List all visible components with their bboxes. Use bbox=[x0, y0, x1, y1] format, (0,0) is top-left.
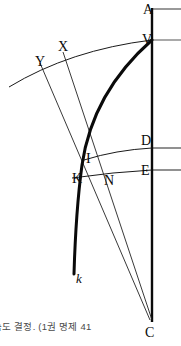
label-n: N bbox=[104, 174, 114, 188]
geometry-figure: A V X Y D I E K N k C 속도 결정. (1권 명제 41 bbox=[0, 0, 181, 346]
label-i: I bbox=[86, 152, 91, 166]
figure-caption: 속도 결정. (1권 명제 41 bbox=[0, 319, 91, 333]
label-e: E bbox=[141, 164, 150, 178]
geometry-diagram bbox=[0, 0, 181, 346]
label-d: D bbox=[141, 134, 151, 148]
label-c: C bbox=[145, 326, 154, 340]
label-y: Y bbox=[35, 55, 45, 69]
label-x: X bbox=[58, 40, 68, 54]
label-k-italic: k bbox=[76, 272, 82, 285]
label-k: K bbox=[72, 172, 82, 186]
label-a: A bbox=[143, 3, 153, 17]
line-y-to-c bbox=[40, 63, 150, 320]
arc-to-d bbox=[84, 148, 152, 160]
label-v: V bbox=[142, 33, 152, 47]
